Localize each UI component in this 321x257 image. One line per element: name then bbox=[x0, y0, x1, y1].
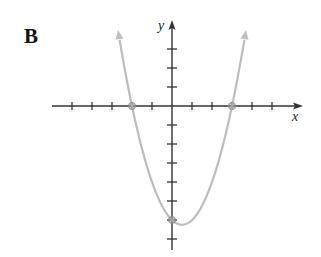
y-axis-label: y bbox=[156, 18, 165, 33]
parabola-path bbox=[120, 40, 245, 225]
intercept-points bbox=[128, 102, 235, 223]
axes bbox=[52, 20, 303, 250]
curve-left-arrow-icon bbox=[116, 30, 124, 40]
parabola-curve bbox=[116, 30, 249, 225]
intercept-point bbox=[228, 102, 235, 109]
intercept-point bbox=[168, 216, 175, 223]
curve-right-arrow-icon bbox=[241, 30, 249, 40]
intercept-point bbox=[128, 102, 135, 109]
parabola-chart: x y bbox=[0, 0, 321, 257]
x-axis-label: x bbox=[291, 109, 299, 124]
